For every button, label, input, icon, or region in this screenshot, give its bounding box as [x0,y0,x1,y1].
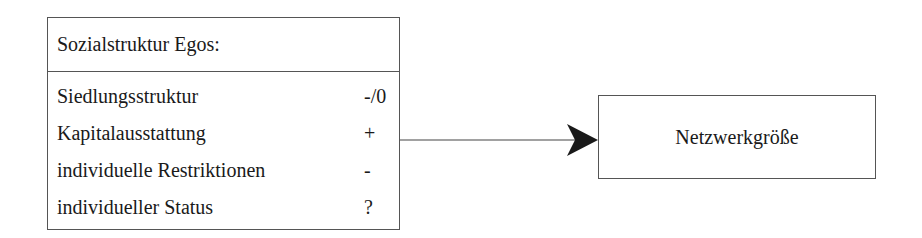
target-box-netzwerkgroesse: Netzwerkgröße [598,95,876,179]
target-box-label: Netzwerkgröße [675,126,798,149]
